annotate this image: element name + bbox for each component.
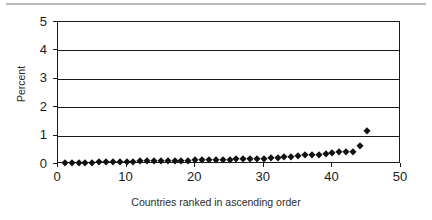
data-point [144,158,151,165]
y-tick-mark-3 [53,78,57,79]
gridline-y-1 [58,136,399,137]
data-point [308,152,315,159]
chart-figure: 012345 01020304050 Percent Countries ran… [0,0,432,220]
x-tick-mark-20 [194,163,195,167]
gridline-y-3 [58,79,399,80]
x-tick-mark-0 [57,163,58,167]
gridline-y-4 [58,50,399,51]
data-point [212,156,219,163]
data-point [89,159,96,166]
data-point [363,128,370,135]
data-point [116,158,123,165]
y-tick-mark-5 [53,21,57,22]
data-point [102,159,109,166]
data-point [226,156,233,163]
y-tick-label-1: 1 [0,128,47,141]
x-tick-mark-50 [400,163,401,167]
data-point [301,152,308,159]
data-point [315,151,322,158]
x-tick-mark-30 [263,163,264,167]
data-point [267,155,274,162]
y-axis-title: Percent [15,49,27,119]
x-tick-mark-10 [126,163,127,167]
plot-area [57,21,400,163]
x-tick-mark-40 [331,163,332,167]
data-point [68,159,75,166]
data-point [198,157,205,164]
data-point [157,157,164,164]
y-tick-mark-4 [53,49,57,50]
x-tick-label-30: 30 [243,170,283,183]
x-tick-label-40: 40 [311,170,351,183]
x-axis-title: Countries ranked in ascending order [0,196,432,208]
top-divider-rule [6,3,426,5]
y-tick-mark-1 [53,135,57,136]
data-point [260,155,267,162]
x-tick-label-10: 10 [106,170,146,183]
data-point [356,142,363,149]
y-tick-label-0: 0 [0,157,47,170]
x-tick-label-0: 0 [37,170,77,183]
x-tick-label-20: 20 [174,170,214,183]
data-point [288,153,295,160]
data-point [185,157,192,164]
data-point [349,148,356,155]
gridline-y-2 [58,107,399,108]
data-point [61,160,68,167]
data-point [130,158,137,165]
y-tick-mark-2 [53,106,57,107]
y-tick-label-5: 5 [0,15,47,28]
x-tick-label-50: 50 [380,170,420,183]
